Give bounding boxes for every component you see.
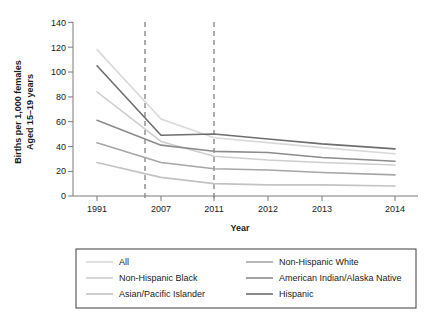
x-tick-label: 1991	[87, 204, 107, 214]
x-axis-tick-labels: 1991 2007 2011 2012 2013 2014	[87, 204, 405, 214]
y-tick-label: 140	[51, 18, 66, 28]
y-axis-title-line2: Aged 15–19 years	[25, 74, 35, 150]
series-line-hispanic	[97, 66, 395, 149]
x-tick-label: 2014	[385, 204, 405, 214]
legend-label-non-hispanic-black: Non-Hispanic Black	[119, 273, 198, 283]
y-tick-label: 0	[61, 191, 66, 201]
y-axis-title-line1: Births per 1,000 females	[13, 60, 23, 164]
chart-legend: All Non-Hispanic White Non-Hispanic Blac…	[76, 249, 416, 308]
y-axis-ticks	[68, 22, 73, 196]
y-tick-label: 120	[51, 43, 66, 53]
x-axis-title: Year	[230, 223, 250, 233]
series-line-asian-pacific-islander	[97, 163, 395, 187]
x-tick-label: 2012	[258, 204, 278, 214]
y-tick-label: 60	[56, 117, 66, 127]
series-lines	[97, 50, 395, 186]
legend-label-non-hispanic-white: Non-Hispanic White	[279, 257, 359, 267]
series-line-non-hispanic-black	[97, 92, 395, 165]
teen-birth-rate-line-chart: Births per 1,000 females Aged 15–19 year…	[0, 0, 435, 315]
x-tick-label: 2013	[312, 204, 332, 214]
legend-label-all: All	[119, 257, 129, 267]
x-tick-label: 2007	[151, 204, 171, 214]
y-tick-label: 20	[56, 166, 66, 176]
x-tick-label: 2011	[204, 204, 223, 214]
y-tick-label: 80	[56, 92, 66, 102]
legend-label-hispanic: Hispanic	[279, 289, 314, 299]
reference-rules	[145, 22, 214, 200]
y-axis-title: Births per 1,000 females Aged 15–19 year…	[13, 60, 35, 164]
legend-label-asian-pacific-islander: Asian/Pacific Islander	[119, 289, 205, 299]
y-axis-tick-labels: 140 120 100 80 60 40 20 0	[51, 18, 66, 201]
legend-label-american-indian-alaska-native: American Indian/Alaska Native	[279, 273, 402, 283]
y-tick-label: 100	[51, 67, 66, 77]
y-tick-label: 40	[56, 142, 66, 152]
x-axis-ticks	[97, 196, 395, 201]
